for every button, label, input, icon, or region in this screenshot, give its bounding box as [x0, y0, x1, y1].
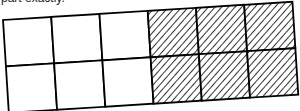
unshaded-cell [6, 63, 57, 111]
unshaded-cell [3, 17, 54, 66]
shaded-cell [199, 51, 250, 100]
shaded-cell [244, 2, 295, 51]
unshaded-cell [99, 11, 150, 60]
shaded-cell [151, 54, 202, 103]
shaded-cell [148, 8, 199, 57]
shaded-cell [196, 5, 247, 54]
unshaded-cell [51, 14, 102, 63]
unshaded-cell [54, 60, 105, 109]
fraction-grid-diagram [0, 0, 300, 111]
unshaded-cell [102, 57, 153, 106]
shaded-cell [247, 48, 298, 97]
